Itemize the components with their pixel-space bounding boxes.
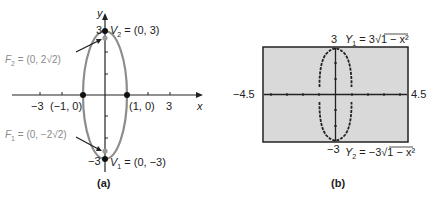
right-intercept-label: (1, 0) xyxy=(129,100,155,112)
figure: y x 3 −3 −3 3 (−1, 0) (1, 0) V2 = (0, 3)… xyxy=(0,0,429,201)
vertex-v1-point xyxy=(102,156,108,162)
v2-label: V2 = (0, 3) xyxy=(110,24,159,38)
y1-equation-label: Y1 = 3√1 − x² xyxy=(345,33,409,47)
y-axis-arrow-icon xyxy=(102,13,108,20)
xmin-label: −4.5 xyxy=(233,88,255,100)
v1-label: V1 = (0, −3) xyxy=(110,156,166,170)
panel-b: −4.5 4.5 3 −3 Y1 = 3√1 − x² Y2 = −3√1 − … xyxy=(233,33,426,189)
y-tick-label-top: 3 xyxy=(96,24,102,36)
xmax-label: 4.5 xyxy=(411,88,426,100)
caption-a: (a) xyxy=(97,177,111,189)
vertex-v2-point xyxy=(102,28,108,34)
x-axis-arrow-icon xyxy=(196,92,203,98)
y2-equation-label: Y2 = −3√1 − x² xyxy=(345,146,416,160)
focus-f2-point xyxy=(102,35,107,40)
ymax-label: 3 xyxy=(331,33,337,45)
focus-f1-point xyxy=(102,148,107,153)
ymin-label: −3 xyxy=(327,143,340,155)
y-tick-label-bottom: −3 xyxy=(88,155,101,167)
f2-label: F2 = (0, 2√2) xyxy=(5,54,61,67)
intercept-right-point xyxy=(124,92,130,98)
f2-pointer-arrow xyxy=(76,40,100,52)
panel-a: y x 3 −3 −3 3 (−1, 0) (1, 0) V2 = (0, 3)… xyxy=(5,7,203,189)
caption-b: (b) xyxy=(331,177,345,189)
x-axis-label: x xyxy=(196,100,203,112)
x-tick-label-right: 3 xyxy=(166,100,172,112)
left-intercept-label: (−1, 0) xyxy=(50,100,82,112)
y-axis-label: y xyxy=(96,7,104,19)
intercept-left-point xyxy=(80,92,86,98)
f1-label: F1 = (0, −2√2) xyxy=(5,129,67,142)
x-tick-label-left: −3 xyxy=(31,100,44,112)
